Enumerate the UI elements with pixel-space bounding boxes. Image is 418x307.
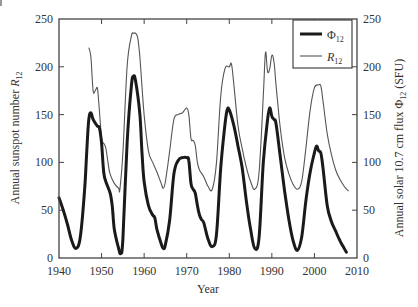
y-tick-label-right: 50 [363,203,375,217]
right-axis-title: Annual solar 10.7 cm flux Φ12 (SFU) [392,59,408,237]
x-tick-label: 2000 [302,264,326,278]
x-axis-title: Year [197,282,219,296]
x-tick-label: 1940 [47,264,71,278]
phi12-line [59,76,346,254]
y-tick-label-right: 200 [363,60,381,74]
y-tick-label-right: 0 [363,251,369,265]
legend-box [293,20,352,68]
x-tick-label: 2010 [345,264,369,278]
y-tick-label-right: 250 [363,12,381,26]
legend: Φ12 R12 [293,20,352,68]
x-tick-label: 1970 [175,264,199,278]
y-tick-label-right: 100 [363,155,381,169]
y-tick-label-left: 0 [47,251,53,265]
y-tick-label-left: 50 [41,203,53,217]
x-tick-label: 1990 [260,264,284,278]
y-tick-label-left: 150 [35,108,53,122]
x-tick-label: 1960 [132,264,156,278]
x-tick-label: 1950 [90,264,114,278]
left-axis-title: Annual sunspot number R12 [8,72,24,205]
chart: 1940195019601970198019902000201005010015… [0,0,418,307]
y-tick-label-right: 150 [363,108,381,122]
y-tick-label-left: 100 [35,155,53,169]
x-tick-label: 1980 [217,264,241,278]
y-tick-label-left: 250 [35,12,53,26]
y-tick-label-left: 200 [35,60,53,74]
